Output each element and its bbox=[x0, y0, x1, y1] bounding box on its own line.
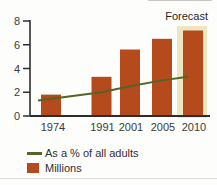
chart-figure: Forecast 0246819741991200120052010 As a … bbox=[0, 0, 217, 185]
legend-item-bar: Millions bbox=[27, 162, 139, 174]
bar-swatch-icon bbox=[27, 163, 39, 173]
bar-1991 bbox=[92, 77, 112, 116]
line-swatch-box bbox=[27, 152, 45, 155]
y-tick-label: 6 bbox=[14, 39, 20, 51]
x-tick-label: 2010 bbox=[182, 121, 206, 133]
x-tick-label: 2005 bbox=[151, 121, 175, 133]
bar-swatch-box bbox=[27, 163, 45, 173]
legend-label-percent: As a % of all adults bbox=[45, 147, 139, 159]
y-tick-label: 0 bbox=[14, 110, 20, 122]
bar-2001 bbox=[120, 50, 140, 117]
legend-label-millions: Millions bbox=[45, 162, 82, 174]
bar-2005 bbox=[152, 39, 172, 116]
line-swatch-icon bbox=[27, 152, 42, 155]
x-tick-label: 1974 bbox=[41, 121, 65, 133]
y-tick-label: 2 bbox=[14, 86, 20, 98]
y-tick-label: 8 bbox=[14, 15, 20, 27]
x-tick-label: 2001 bbox=[119, 121, 143, 133]
legend: As a % of all adults Millions bbox=[27, 147, 139, 174]
legend-item-line: As a % of all adults bbox=[27, 147, 139, 159]
bottom-rule bbox=[0, 178, 217, 179]
bar-2010 bbox=[183, 31, 203, 117]
x-tick-label: 1991 bbox=[90, 121, 114, 133]
y-tick-label: 4 bbox=[14, 63, 20, 75]
